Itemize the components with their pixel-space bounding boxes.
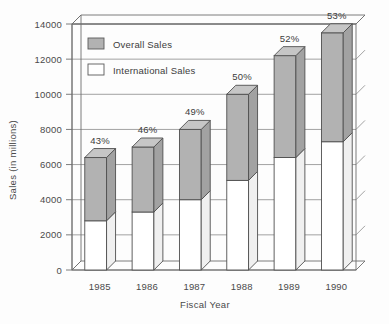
bar-segment-overall-side bbox=[249, 85, 258, 180]
y-tick-label: 4000 bbox=[40, 194, 62, 205]
sales-chart: 43%46%49%50%52%53% 020004000600080001000… bbox=[0, 0, 389, 324]
bar-segment-international-side bbox=[201, 191, 210, 270]
bar-segment-international-front bbox=[321, 142, 343, 270]
percent-label: 53% bbox=[327, 10, 347, 21]
legend-label: International Sales bbox=[113, 65, 196, 76]
y-tick-label: 10000 bbox=[35, 89, 62, 100]
x-tick-label: 1985 bbox=[89, 281, 111, 292]
bar-segment-overall-front bbox=[85, 158, 107, 221]
x-tick-label: 1990 bbox=[325, 281, 347, 292]
y-axis-tick-labels: 02000400060008000100001200014000 bbox=[35, 19, 62, 276]
gridline-depth bbox=[356, 50, 365, 59]
bar-1990 bbox=[321, 24, 352, 270]
percent-label: 52% bbox=[280, 33, 300, 44]
x-tick-label: 1988 bbox=[231, 281, 253, 292]
x-tick-label: 1986 bbox=[136, 281, 158, 292]
bar-segment-overall-front bbox=[321, 33, 343, 142]
x-tick-label: 1989 bbox=[278, 281, 300, 292]
percent-label: 50% bbox=[232, 71, 252, 82]
legend-label: Overall Sales bbox=[113, 39, 172, 50]
bar-1988 bbox=[227, 85, 258, 270]
bar-segment-overall-front bbox=[132, 147, 154, 212]
bar-segment-overall-side bbox=[343, 24, 352, 142]
chart-legend: Overall SalesInternational Sales bbox=[88, 38, 196, 76]
y-tick-label: 12000 bbox=[35, 54, 62, 65]
gridline-depth bbox=[356, 120, 365, 129]
axis-ticks bbox=[66, 24, 72, 270]
percent-label: 46% bbox=[138, 124, 158, 135]
bar-series-group bbox=[85, 24, 352, 270]
bar-segment-international-front bbox=[179, 200, 201, 270]
gridline-depth bbox=[356, 85, 365, 94]
bar-segment-overall-side bbox=[107, 149, 116, 221]
bar-segment-international-front bbox=[227, 180, 249, 270]
bar-segment-international-front bbox=[132, 212, 154, 270]
bar-segment-international-side bbox=[154, 203, 163, 270]
bar-segment-overall-side bbox=[154, 138, 163, 212]
chart-canvas: 43%46%49%50%52%53% 020004000600080001000… bbox=[0, 0, 389, 324]
bar-segment-international-side bbox=[343, 133, 352, 270]
plot-left-wall bbox=[72, 15, 81, 270]
y-tick-label: 0 bbox=[57, 265, 62, 276]
bar-segment-overall-front bbox=[179, 129, 201, 199]
bar-segment-overall-side bbox=[201, 120, 210, 199]
bar-segment-international-side bbox=[296, 149, 305, 270]
y-tick-label: 8000 bbox=[40, 124, 62, 135]
x-axis-tick-labels: 198519861987198819891990 bbox=[89, 281, 348, 292]
y-tick-label: 2000 bbox=[40, 229, 62, 240]
x-tick-label: 1987 bbox=[183, 281, 205, 292]
y-tick-label: 14000 bbox=[35, 19, 62, 30]
x-axis-title: Fiscal Year bbox=[180, 299, 230, 310]
gridline-depth bbox=[356, 226, 365, 235]
bar-segment-international-side bbox=[249, 171, 258, 270]
percent-labels: 43%46%49%50%52%53% bbox=[90, 10, 347, 146]
bar-segment-international-side bbox=[107, 212, 116, 270]
legend-swatch-international bbox=[88, 64, 104, 75]
bar-1986 bbox=[132, 138, 163, 270]
percent-label: 49% bbox=[185, 106, 205, 117]
legend-swatch-overall bbox=[88, 38, 104, 49]
bar-segment-overall-front bbox=[227, 94, 249, 180]
y-axis-title: Sales (in millions) bbox=[7, 120, 18, 200]
percent-label: 43% bbox=[90, 135, 110, 146]
bar-segment-international-front bbox=[274, 158, 296, 270]
bar-1985 bbox=[85, 149, 116, 270]
y-tick-label: 6000 bbox=[40, 159, 62, 170]
bar-segment-overall-side bbox=[296, 47, 305, 158]
bar-segment-international-front bbox=[85, 221, 107, 270]
bar-1989 bbox=[274, 47, 305, 270]
plot-ceiling bbox=[72, 15, 365, 24]
gridline-depth bbox=[356, 156, 365, 165]
bar-segment-overall-front bbox=[274, 56, 296, 158]
gridline-depth bbox=[356, 191, 365, 200]
bar-1987 bbox=[179, 120, 210, 270]
